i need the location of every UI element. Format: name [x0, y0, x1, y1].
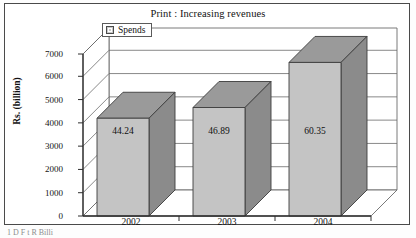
chart-canvas	[5, 4, 411, 226]
chart-border-box: Print : Increasing revenues	[4, 3, 410, 225]
x-tick-2002: 2002	[101, 217, 161, 227]
bar-2003	[193, 82, 271, 217]
chart-figure: Print : Increasing revenues	[0, 0, 416, 238]
y-tick-7000: 7000	[29, 49, 63, 59]
y-tick-1000: 1000	[29, 188, 63, 198]
y-tick-marks	[78, 54, 83, 216]
y-tick-3000: 3000	[29, 141, 63, 151]
y-tick-4000: 4000	[29, 118, 63, 128]
bar-2002	[97, 92, 175, 216]
y-axis-tick-labels: 0 1000 2000 3000 4000 5000 6000 7000	[29, 4, 63, 226]
y-tick-2000: 2000	[29, 164, 63, 174]
legend-label-spends: Spends	[118, 25, 145, 35]
x-tick-2003: 2003	[197, 217, 257, 227]
y-tick-6000: 6000	[29, 71, 63, 81]
y-axis-title: Rs. (billion)	[12, 51, 22, 151]
bar-label-2002: 44.24	[112, 126, 133, 136]
bar-label-2003: 46.89	[208, 126, 229, 136]
chart-legend: Spends	[102, 23, 152, 37]
plot-area: 0 1000 2000 3000 4000 5000 6000 7000 Rs.…	[5, 4, 411, 226]
bar-label-2004: 60.35	[304, 126, 325, 136]
bar-2004	[289, 36, 367, 216]
figure-caption: 1 D F t R Billi	[7, 228, 407, 237]
legend-swatch-spends-icon	[106, 26, 114, 34]
y-tick-5000: 5000	[29, 95, 63, 105]
x-tick-2004: 2004	[293, 217, 353, 227]
